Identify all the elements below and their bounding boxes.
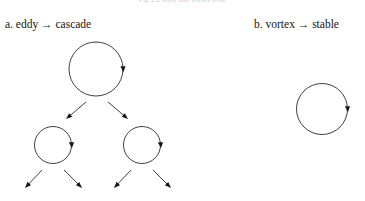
child-eddy-right-arrowhead xyxy=(158,142,163,148)
panel-b-group xyxy=(297,84,351,135)
figure-root: Fig 2.2 eddy and vortex flow a. eddy → c… xyxy=(0,0,365,201)
child-eddy-left-loop xyxy=(35,127,75,164)
child-eddy-left-arrowhead xyxy=(69,142,74,148)
parent-eddy-arrowhead xyxy=(120,66,125,72)
branch-parent-right xyxy=(108,102,125,117)
child-eddy-left-circle xyxy=(35,127,72,164)
stable-vortex-loop xyxy=(297,84,351,135)
parent-eddy-circle xyxy=(69,42,123,96)
branch-parent-left xyxy=(69,102,86,117)
branch-right-child-left xyxy=(117,170,131,185)
branch-left-child-right xyxy=(64,170,79,185)
parent-eddy-loop xyxy=(69,42,126,96)
panel-a-group xyxy=(25,42,171,188)
branch-right-child-right xyxy=(153,170,168,185)
child-eddy-right-loop xyxy=(124,127,164,164)
panel-a-branches xyxy=(25,102,171,188)
branch-left-child-left xyxy=(28,170,42,185)
stable-vortex-circle xyxy=(297,84,348,135)
child-eddy-right-circle xyxy=(124,127,161,164)
stable-vortex-arrowhead xyxy=(345,106,350,112)
diagram-canvas xyxy=(0,0,365,201)
